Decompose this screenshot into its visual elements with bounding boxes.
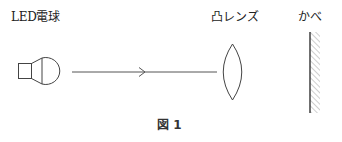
convex-lens-icon bbox=[223, 44, 242, 100]
led-bulb-icon bbox=[19, 58, 60, 85]
wall-icon bbox=[310, 32, 320, 113]
figure-caption: 図 1 bbox=[157, 118, 182, 132]
light-ray bbox=[72, 68, 217, 77]
